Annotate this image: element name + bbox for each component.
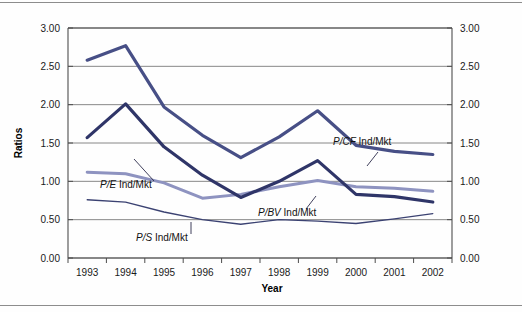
x-axis-tick-label: 1999 — [306, 267, 329, 278]
x-axis-title: Year — [261, 283, 282, 294]
series-annotation-label: P/BV Ind/Mkt — [258, 207, 317, 218]
x-axis-tick-label: 1995 — [153, 267, 176, 278]
y-axis-right-tick-label: 3.00 — [460, 23, 480, 34]
annotation-leader-line — [367, 152, 378, 166]
y-axis-right-tick-labels: 3.002.502.001.501.000.500.00 — [460, 23, 480, 264]
series-annotation-label: P/CF Ind/Mkt — [333, 136, 392, 147]
series-annotations-group: P/CF Ind/MktP/E Ind/MktP/BV Ind/MktP/S I… — [100, 136, 392, 243]
chart-figure: 3.002.502.001.501.000.500.00 3.002.502.0… — [0, 0, 522, 312]
y-axis-left-tick-label: 1.50 — [41, 138, 61, 149]
y-axis-left-tick-label: 2.50 — [41, 61, 61, 72]
y-axis-left-tick-labels: 3.002.502.001.501.000.500.00 — [41, 23, 61, 264]
ratios-line-chart: 3.002.502.001.501.000.500.00 3.002.502.0… — [0, 0, 522, 312]
y-axis-left-tick-label: 1.00 — [41, 176, 61, 187]
x-axis-tick-label: 2000 — [345, 267, 368, 278]
x-axis-tick-label: 1993 — [76, 267, 99, 278]
x-axis-tick-label: 1997 — [230, 267, 253, 278]
x-axis-tick-label: 1994 — [114, 267, 137, 278]
x-axis-tick-label: 1996 — [191, 267, 214, 278]
x-axis-tick-label: 1998 — [268, 267, 291, 278]
y-axis-left-tick-label: 2.00 — [41, 99, 61, 110]
x-axis-tick-label: 2001 — [383, 267, 406, 278]
y-axis-right-tick-label: 0.00 — [460, 253, 480, 264]
y-axis-right-tick-label: 1.50 — [460, 138, 480, 149]
y-axis-title: Ratios — [13, 127, 24, 158]
y-axis-left-tick-label: 3.00 — [41, 23, 61, 34]
y-axis-right-tick-label: 1.00 — [460, 176, 480, 187]
y-axis-left-tick-label: 0.00 — [41, 253, 61, 264]
x-axis-tick-label: 2002 — [422, 267, 445, 278]
y-axis-right-tick-label: 2.00 — [460, 99, 480, 110]
series-annotation-label: P/S Ind/Mkt — [136, 232, 188, 243]
y-axis-left-tick-label: 0.50 — [41, 214, 61, 225]
data-series-group — [87, 46, 433, 225]
series-annotation-label: P/E Ind/Mkt — [100, 179, 152, 190]
gridlines-group — [68, 28, 452, 258]
x-axis-tick-labels: 1993199419951996199719981999200020012002 — [76, 267, 444, 278]
y-axis-right-tick-label: 0.50 — [460, 214, 480, 225]
y-axis-right-tick-label: 2.50 — [460, 61, 480, 72]
